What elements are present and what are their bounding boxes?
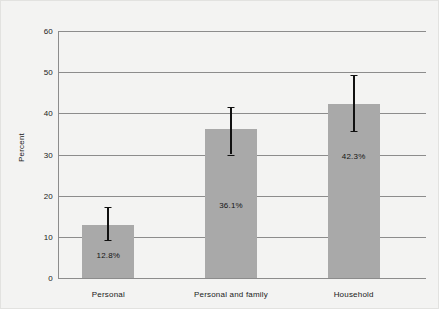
bar-chart-figure: Percent 0102030405060 12.8%36.1%42.3% Pe…	[0, 0, 439, 309]
error-bar-cap-lower	[228, 155, 235, 156]
gridline-0	[58, 278, 426, 279]
gridline-60	[58, 31, 426, 32]
error-bar	[230, 107, 232, 154]
y-tick-label: 40	[44, 109, 53, 118]
error-bar	[107, 207, 109, 240]
bar-value-label: 36.1%	[205, 201, 257, 210]
y-tick-label: 10	[44, 232, 53, 241]
error-bar-cap-lower	[350, 131, 357, 132]
x-tick-label: Personal	[92, 290, 125, 299]
x-tick-label: Personal and family	[194, 290, 268, 299]
x-tick-label: Household	[334, 290, 374, 299]
y-tick-label: 50	[44, 68, 53, 77]
error-bar-cap-upper	[228, 107, 235, 108]
plot-area: 12.8%36.1%42.3%	[58, 31, 426, 278]
x-axis-tick-labels: PersonalPersonal and familyHousehold	[1, 290, 439, 304]
error-bar-cap-upper	[105, 207, 112, 208]
bar-value-label: 12.8%	[82, 251, 134, 260]
y-tick-label: 30	[44, 150, 53, 159]
bar-value-label: 42.3%	[328, 152, 380, 161]
gridline-50	[58, 72, 426, 73]
error-bar-cap-upper	[350, 75, 357, 76]
y-tick-label: 60	[44, 27, 53, 36]
error-bar-cap-lower	[105, 240, 112, 241]
y-tick-label: 0	[48, 274, 53, 283]
error-bar	[353, 75, 355, 131]
y-tick-label: 20	[44, 191, 53, 200]
y-axis-tick-labels: 0102030405060	[1, 31, 53, 278]
